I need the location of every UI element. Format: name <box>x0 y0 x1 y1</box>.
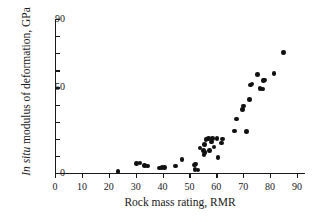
x-tick-label-80: 80 <box>258 181 282 192</box>
y-tick-10 <box>55 156 60 157</box>
data-point <box>247 97 252 102</box>
data-point <box>173 164 178 169</box>
data-point <box>116 169 121 174</box>
data-point <box>234 117 239 122</box>
data-point <box>180 157 185 162</box>
x-tick-20 <box>109 173 110 178</box>
x-axis-line <box>55 173 305 174</box>
x-tick-label-0: 0 <box>43 181 67 192</box>
y-axis-line <box>55 19 56 174</box>
data-point <box>196 168 201 173</box>
x-tick-label-10: 10 <box>70 181 94 192</box>
x-tick-80 <box>270 173 271 178</box>
data-point <box>212 145 217 150</box>
chart-figure: 0102030405060708090 05090 Rock mass rati… <box>0 0 322 219</box>
data-point <box>232 129 237 134</box>
x-tick-label-40: 40 <box>151 181 175 192</box>
data-point <box>260 87 265 92</box>
x-tick-30 <box>136 173 137 178</box>
x-axis-title: Rock mass rating, RMR <box>55 196 305 209</box>
y-tick-label-0: 0 <box>45 167 65 178</box>
data-point <box>193 162 198 167</box>
x-tick-90 <box>297 173 298 178</box>
data-point <box>162 165 167 170</box>
data-point <box>219 141 224 146</box>
data-point <box>250 82 255 87</box>
x-tick-label-70: 70 <box>231 181 255 192</box>
x-tick-label-60: 60 <box>204 181 228 192</box>
y-axis-title: In situ modulus of deformation, GPa <box>20 4 33 180</box>
data-point <box>145 164 150 169</box>
x-tick-label-20: 20 <box>97 181 121 192</box>
y-tick-20 <box>55 139 60 140</box>
data-point <box>207 148 212 153</box>
x-tick-label-30: 30 <box>124 181 148 192</box>
y-tick-60 <box>55 70 60 71</box>
x-tick-70 <box>243 173 244 178</box>
y-tick-label-50: 50 <box>45 81 65 92</box>
x-tick-10 <box>82 173 83 178</box>
y-axis-title-rest: modulus of deformation, GPa <box>20 7 32 147</box>
data-point <box>220 137 225 142</box>
y-tick-40 <box>55 105 60 106</box>
x-tick-label-90: 90 <box>285 181 309 192</box>
data-point <box>216 155 221 160</box>
data-point <box>241 104 246 109</box>
y-tick-80 <box>55 36 60 37</box>
x-tick-60 <box>216 173 217 178</box>
scatter-plot-area: 0102030405060708090 05090 <box>55 19 305 173</box>
data-point <box>281 50 286 55</box>
y-tick-label-90: 90 <box>45 13 65 24</box>
x-tick-label-50: 50 <box>177 181 201 192</box>
data-point <box>262 78 267 83</box>
y-axis-title-italic: In situ <box>20 147 32 176</box>
data-point <box>202 142 207 147</box>
data-point <box>244 129 249 134</box>
y-tick-30 <box>55 122 60 123</box>
data-point <box>240 107 245 112</box>
x-tick-40 <box>163 173 164 178</box>
data-point <box>255 72 260 77</box>
x-tick-50 <box>189 173 190 178</box>
y-tick-70 <box>55 53 60 54</box>
data-point <box>215 136 220 141</box>
data-point <box>272 71 277 76</box>
